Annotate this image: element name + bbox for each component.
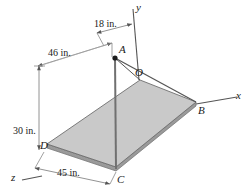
mechanics-figure: A B C D O y x z 18 in. 46 in. 30 in. 45 … — [0, 0, 247, 193]
point-a-label: A — [119, 44, 126, 55]
member-a-c — [115, 58, 116, 169]
dimension-18in: 18 in. — [94, 19, 117, 29]
point-o-label: O — [135, 67, 143, 78]
dimension-46in: 46 in. — [48, 48, 71, 58]
witness-45-right — [110, 172, 116, 184]
x-axis-label: x — [236, 90, 241, 101]
figure-canvas — [0, 0, 247, 193]
dimension-30in: 30 in. — [13, 126, 36, 136]
dimension-45in: 45 in. — [57, 168, 80, 178]
witness-45-left — [35, 152, 44, 168]
z-axis-label: z — [11, 172, 15, 183]
x-axis-label-y: y — [136, 2, 141, 13]
witness-18-lower — [97, 33, 104, 46]
z-axis-line — [22, 176, 42, 180]
x-axis-line — [196, 97, 237, 104]
node-a-dot — [112, 55, 117, 60]
point-d-label: D — [40, 140, 48, 151]
point-b-label: B — [198, 105, 205, 116]
plate — [47, 80, 196, 171]
point-c-label: C — [117, 174, 124, 185]
